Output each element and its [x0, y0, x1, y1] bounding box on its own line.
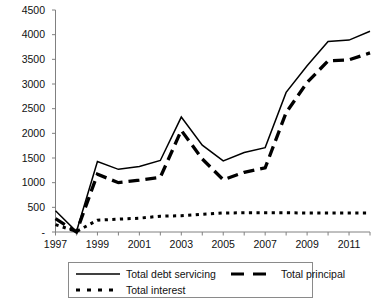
y-axis-label-2000: 2000: [5, 128, 45, 139]
legend-row-1: Total debt servicing Total principal: [75, 266, 306, 282]
x-axis-label-1997: 1997: [36, 239, 76, 250]
x-axis-label-2007: 2007: [245, 239, 285, 250]
y-axis-label-500: 500: [5, 202, 45, 213]
y-axis-label-3500: 3500: [5, 54, 45, 65]
series-line-total-debt-servicing: [56, 31, 371, 231]
legend-row-2: Total interest: [75, 282, 306, 298]
legend-label-total-debt-servicing: Total debt servicing: [126, 269, 216, 280]
legend-item-total-interest: Total interest: [75, 285, 186, 296]
data-series-layer: [56, 31, 371, 232]
x-axis-label-2001: 2001: [119, 239, 159, 250]
y-axis-label-2500: 2500: [5, 103, 45, 114]
y-axis-label-4000: 4000: [5, 29, 45, 40]
y-axis-label-4500: 4500: [5, 5, 45, 16]
legend-label-total-principal: Total principal: [281, 269, 345, 280]
legend-item-total-principal: Total principal: [230, 269, 345, 280]
legend: Total debt servicing Total principal Tot…: [68, 262, 313, 298]
x-axis-label-1999: 1999: [77, 239, 117, 250]
x-axis-label-2011: 2011: [329, 239, 369, 250]
legend-swatch-solid: [75, 269, 121, 279]
legend-swatch-dotted: [75, 285, 121, 295]
series-line-total-interest: [56, 213, 371, 232]
axes: [52, 10, 370, 236]
legend-item-total-debt-servicing: Total debt servicing: [75, 269, 216, 280]
legend-swatch-dashed: [230, 269, 276, 279]
y-axis-label-1000: 1000: [5, 177, 45, 188]
series-line-total-principal: [56, 53, 371, 232]
y-axis-label-3000: 3000: [5, 79, 45, 90]
x-axis-label-2009: 2009: [287, 239, 327, 250]
legend-label-total-interest: Total interest: [126, 285, 186, 296]
plot-area: -50010001500200025003000350040004500 199…: [0, 0, 379, 250]
chart-figure: -50010001500200025003000350040004500 199…: [0, 0, 379, 307]
x-axis-label-2005: 2005: [203, 239, 243, 250]
x-axis-label-2003: 2003: [161, 239, 201, 250]
chart-canvas: [0, 0, 379, 250]
y-axis-label-1500: 1500: [5, 153, 45, 164]
y-axis-label-0: -: [5, 227, 45, 238]
